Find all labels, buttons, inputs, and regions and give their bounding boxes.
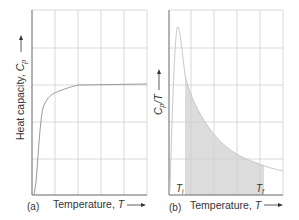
panel-a: Heat capacity, Cp (a) Temperature, T — [14, 10, 147, 212]
grid-a — [32, 10, 147, 195]
y-axis-arrow-a — [19, 35, 23, 52]
x-axis-label-b: Temperature, T — [190, 199, 263, 211]
shaded-area — [185, 75, 264, 195]
x-axis-arrow-b — [264, 203, 283, 207]
figure: Heat capacity, Cp (a) Temperature, T — [0, 0, 299, 220]
t-initial-label: Ti — [176, 183, 184, 195]
x-axis-label-a: Temperature, T — [53, 198, 126, 210]
panel-tag-a: (a) — [27, 201, 39, 212]
y-axis-label-b: Cp/T — [152, 93, 166, 115]
y-axis-arrow-b — [157, 69, 161, 90]
y-axis-label-a: Heat capacity, Cp — [14, 60, 28, 140]
heat-capacity-curve — [34, 84, 147, 195]
x-axis-arrow-a — [127, 203, 146, 207]
panel-tag-b: (b) — [169, 202, 181, 213]
panel-b: Cp/T Ti Tf (b) Temperature, T — [152, 10, 283, 213]
